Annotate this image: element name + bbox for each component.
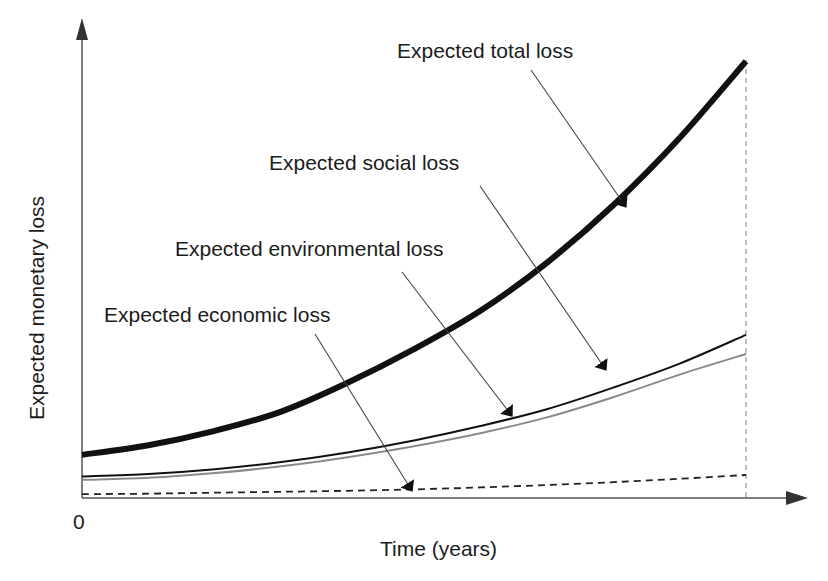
y-axis-arrow-icon (76, 18, 88, 40)
x-axis-arrow-icon (786, 491, 808, 505)
series-economic-loss (82, 475, 746, 494)
callout-arrow-total (531, 70, 626, 207)
label-economic-loss: Expected economic loss (104, 303, 330, 326)
chart: Expected total loss Expected social loss… (0, 0, 828, 581)
label-total-loss: Expected total loss (397, 39, 573, 62)
callout-arrow-social (480, 186, 606, 370)
series-environmental-loss (82, 354, 746, 480)
y-axis-title: Expected monetary loss (25, 196, 48, 420)
label-social-loss: Expected social loss (269, 151, 459, 174)
series-social-loss (82, 335, 746, 477)
x-axis-title: Time (years) (380, 537, 497, 560)
y-axis (76, 18, 88, 498)
x-origin-label: 0 (73, 510, 85, 533)
label-environmental-loss: Expected environmental loss (175, 237, 443, 260)
